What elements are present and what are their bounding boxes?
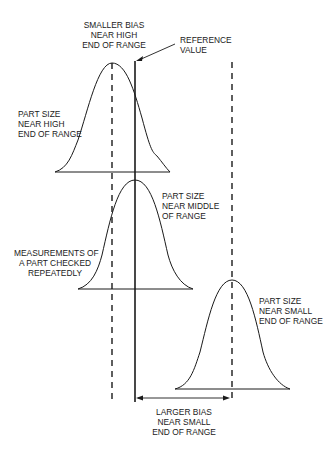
arrowhead-right xyxy=(223,396,230,401)
label-smaller-bias: SMALLER BIAS NEAR HIGH END OF RANGE xyxy=(82,20,146,50)
bias-diagram xyxy=(0,0,333,457)
label-larger-bias: LARGER BIAS NEAR SMALL END OF RANGE xyxy=(150,407,218,437)
label-part-middle: PART SIZE NEAR MIDDLE OF RANGE xyxy=(162,191,219,221)
label-part-small: PART SIZE NEAR SMALL END OF RANGE xyxy=(259,296,323,326)
label-measurements: MEASUREMENTS OF A PART CHECKED REPEATEDL… xyxy=(14,248,96,278)
reference-arrowhead xyxy=(136,56,143,61)
label-reference-value: REFERENCE VALUE xyxy=(180,35,232,55)
arrowhead-left xyxy=(136,396,143,401)
label-part-high: PART SIZE NEAR HIGH END OF RANGE xyxy=(18,109,82,139)
